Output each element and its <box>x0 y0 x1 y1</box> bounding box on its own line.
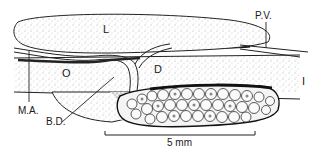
label-duodenum: D <box>154 63 162 75</box>
label-bile-duct: B.D. <box>46 116 65 127</box>
label-liver: L <box>103 23 109 35</box>
liver <box>14 14 270 53</box>
label-mesenteric-artery: M.A. <box>18 105 39 116</box>
label-intestine: I <box>302 75 305 87</box>
label-oesophagus: O <box>62 67 71 79</box>
cell-mass <box>117 85 279 127</box>
label-portal-vein: P.V. <box>255 10 272 21</box>
scale-bar <box>105 131 255 135</box>
anatomical-diagram: L O D I P.V. M.A. B.D. 5 mm <box>0 0 328 155</box>
scale-bar-label: 5 mm <box>167 137 192 148</box>
